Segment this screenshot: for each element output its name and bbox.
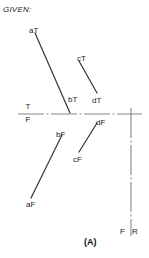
line-cT-dT bbox=[79, 61, 97, 93]
given-label: GIVEN: bbox=[3, 5, 31, 14]
point-label-bF: bF bbox=[56, 130, 65, 139]
figure-caption: (A) bbox=[84, 238, 97, 247]
fold-line-label-front: F bbox=[22, 115, 34, 124]
fold-line-label-r: R bbox=[132, 227, 138, 236]
point-label-cT: cT bbox=[77, 54, 86, 63]
point-label-cF: cF bbox=[73, 155, 82, 164]
point-label-aT: aT bbox=[29, 26, 38, 35]
diagram-svg bbox=[0, 0, 149, 258]
point-label-aF: aF bbox=[26, 200, 35, 209]
point-label-dF: dF bbox=[96, 118, 105, 127]
line-aT-bT bbox=[35, 33, 70, 113]
fold-line-label-f: F bbox=[120, 227, 125, 236]
line-bF-aF bbox=[31, 135, 62, 198]
diagram-canvas: GIVEN: aT bT cT dT bF dF cF aF T F FR (A… bbox=[0, 0, 149, 258]
fold-line-label-fr: FR bbox=[120, 227, 138, 236]
fold-line-label-top: T bbox=[22, 102, 34, 111]
point-label-bT: bT bbox=[68, 95, 77, 104]
line-dF-cF bbox=[79, 123, 97, 152]
point-label-dT: dT bbox=[92, 96, 101, 105]
